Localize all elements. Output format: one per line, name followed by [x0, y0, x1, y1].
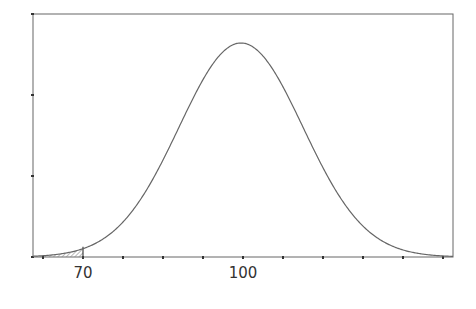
- plot-frame: [33, 14, 453, 257]
- x-tick-label-70: 70: [73, 264, 92, 282]
- x-tick: [122, 256, 124, 259]
- y-tick: [31, 175, 34, 177]
- normal-distribution-chart: 70 100: [0, 0, 476, 309]
- x-tick: [202, 256, 204, 259]
- x-tick-label-100: 100: [229, 264, 258, 282]
- x-tick: [242, 256, 244, 259]
- x-tick: [362, 256, 364, 259]
- x-tick: [282, 256, 284, 259]
- x-tick: [162, 256, 164, 259]
- normal-curve: [33, 43, 453, 256]
- y-tick: [31, 94, 34, 96]
- y-tick: [31, 13, 34, 15]
- x-tick: [402, 256, 404, 259]
- x-tick: [322, 256, 324, 259]
